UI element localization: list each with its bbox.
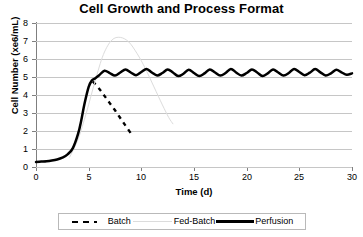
x-tick-label: 5 [74,173,104,182]
series-lines [36,23,352,167]
y-tick-label: 0 [2,163,28,172]
chart-title: Cell Growth and Process Format [0,0,363,17]
gridline [36,167,352,168]
x-axis-title: Time (d) [36,186,352,197]
x-tick-label: 15 [179,173,209,182]
y-axis-title: Cell Number (xe6/mL) [9,0,20,136]
legend-label-batch: Batch [108,217,131,226]
legend-item-fed-batch: Fed-Batch [131,217,216,226]
fed-batch-line-swatch-icon [131,217,174,226]
legend-item-batch: Batch [71,217,131,226]
plot-area [36,23,352,167]
chart-container: Cell Growth and Process Format 012345678… [0,0,363,237]
x-tick-label: 30 [337,173,363,182]
x-tick-label: 10 [126,173,156,182]
series-batch [93,82,131,134]
chart-legend: Batch Fed-Batch Perfusion [58,213,306,230]
x-tick-label: 20 [232,173,262,182]
y-tick-label: 1 [2,145,28,154]
x-tick-label: 25 [284,173,314,182]
x-tick-mark [352,167,353,171]
legend-item-perfusion: Perfusion [215,217,293,226]
perfusion-line-swatch-icon [215,217,255,226]
series-perfusion [36,69,352,162]
legend-label-fed-batch: Fed-Batch [174,217,216,226]
batch-line-swatch-icon [71,217,108,226]
x-tick-label: 0 [21,173,51,182]
legend-label-perfusion: Perfusion [255,217,293,226]
